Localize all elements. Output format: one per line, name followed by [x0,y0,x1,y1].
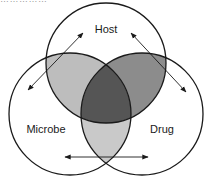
venn-diagram: Host Microbe Drug [0,0,206,187]
host-label: Host [95,23,118,35]
drug-label: Drug [150,123,174,135]
microbe-label: Microbe [26,123,65,135]
